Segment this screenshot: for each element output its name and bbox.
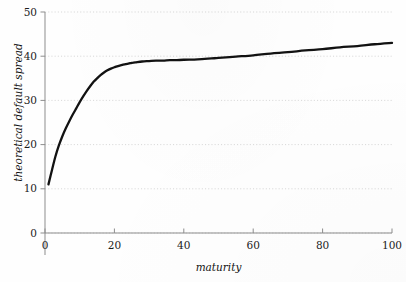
data-series-group (48, 43, 392, 184)
x-tick-label-60: 60 (247, 239, 260, 251)
y-tick-label-40: 40 (24, 50, 37, 62)
y-tick-label-30: 30 (24, 94, 37, 106)
y-tick-label-20: 20 (24, 138, 37, 150)
y-axis-title: theoretical default spread (12, 43, 24, 182)
data-series-line-0 (48, 43, 392, 184)
y-axis-ticks-group (41, 12, 46, 233)
x-tick-label-80: 80 (316, 239, 329, 251)
line-chart-plot: 01020304050 020406080100 maturity theore… (0, 0, 406, 282)
gridlines-group (45, 12, 392, 233)
x-tick-label-20: 20 (108, 239, 121, 251)
y-tick-label-10: 10 (24, 182, 37, 194)
x-tick-label-100: 100 (382, 239, 402, 251)
chart-figure: 01020304050 020406080100 maturity theore… (0, 0, 406, 282)
y-tick-label-50: 50 (24, 6, 37, 18)
x-axis-tick-labels-group: 020406080100 (42, 239, 402, 251)
x-axis-title: maturity (196, 261, 243, 273)
y-axis-tick-labels-group: 01020304050 (24, 6, 37, 239)
x-tick-label-40: 40 (177, 239, 190, 251)
x-tick-label-0: 0 (42, 239, 49, 251)
x-axis-ticks-group (45, 229, 392, 234)
y-tick-label-0: 0 (30, 227, 37, 239)
